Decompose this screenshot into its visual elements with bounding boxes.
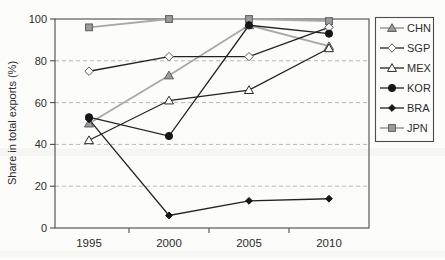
x-label-2005: 2005 xyxy=(236,237,262,249)
series-SGP-marker-2005 xyxy=(245,52,253,60)
line-chart: Share in total exports (%) 0204060801001… xyxy=(0,0,445,260)
y-tick-label-60: 60 xyxy=(35,97,47,109)
legend-label-BRA: BRA xyxy=(407,102,430,114)
scan-band xyxy=(0,251,445,257)
series-JPN-marker-1995 xyxy=(86,24,93,31)
legend-label-CHN: CHN xyxy=(407,22,431,34)
y-tick-label-20: 20 xyxy=(35,180,47,192)
plot-area: 0204060801001995200020052010CHNSGPMEXKOR… xyxy=(29,13,434,249)
series-KOR-marker-2000 xyxy=(165,132,172,139)
legend-marker-JPN xyxy=(389,125,396,132)
series-KOR-marker-2005 xyxy=(245,22,252,29)
series-SGP-marker-1995 xyxy=(85,67,93,75)
series-JPN-marker-2000 xyxy=(166,16,173,23)
y-tick-label-0: 0 xyxy=(41,222,47,234)
series-BRA-marker-2005 xyxy=(246,197,253,204)
legend-label-SGP: SGP xyxy=(407,42,430,54)
series-MEX-marker-2005 xyxy=(244,86,253,94)
series-CHN-marker-2000 xyxy=(164,71,173,79)
plot-spines xyxy=(55,19,369,228)
y-tick-label-100: 100 xyxy=(29,13,47,25)
series-KOR-line xyxy=(89,25,329,136)
legend-label-KOR: KOR xyxy=(407,82,431,94)
series-BRA-marker-2010 xyxy=(326,195,333,202)
y-tick-label-40: 40 xyxy=(35,138,47,150)
series-JPN-line xyxy=(89,19,329,27)
series-BRA-line xyxy=(89,119,329,215)
legend-label-JPN: JPN xyxy=(407,122,428,134)
series-MEX-marker-1995 xyxy=(84,136,93,144)
legend-box: CHNSGPMEXKORBRAJPN xyxy=(376,18,434,142)
y-tick-label-80: 80 xyxy=(35,55,47,67)
series-SGP-marker-2000 xyxy=(165,52,173,60)
x-label-2010: 2010 xyxy=(316,237,342,249)
x-label-2000: 2000 xyxy=(156,237,182,249)
scan-artifacts xyxy=(0,148,445,257)
chart-figure: Share in total exports (%) 0204060801001… xyxy=(0,0,445,260)
y-axis-title: Share in total exports (%) xyxy=(6,61,18,185)
series-KOR-marker-2010 xyxy=(325,30,332,37)
legend-marker-KOR xyxy=(388,84,395,91)
series-MEX-line xyxy=(89,48,329,140)
scan-band xyxy=(0,148,445,156)
x-label-1995: 1995 xyxy=(76,237,102,249)
legend-label-MEX: MEX xyxy=(407,62,432,74)
